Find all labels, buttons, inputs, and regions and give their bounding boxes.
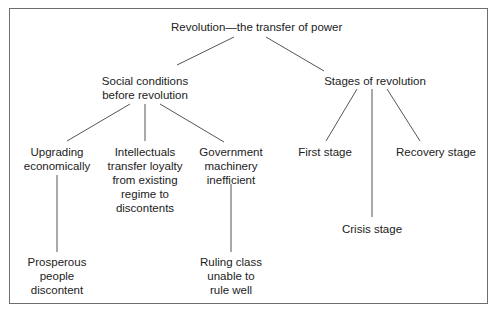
link-social-government (160, 104, 224, 142)
node-first-stage: First stage (290, 145, 360, 159)
node-root: Revolution—the transfer of power (171, 20, 331, 34)
node-line: Social conditions (95, 74, 195, 88)
node-line: unable to (191, 269, 271, 283)
node-line: Crisis stage (332, 222, 412, 236)
node-recovery-stage: Recovery stage (394, 145, 478, 159)
node-line: discontent (17, 283, 97, 297)
link-root-social (177, 37, 234, 65)
node-line: Prosperous (17, 255, 97, 269)
node-line: transfer loyalty (105, 159, 185, 173)
node-line: discontents (105, 201, 185, 215)
node-government: Government machinery inefficient (191, 145, 271, 187)
node-line: rule well (191, 283, 271, 297)
link-root-stages (266, 37, 324, 71)
node-line: Government (191, 145, 271, 159)
node-line: regime to (105, 187, 185, 201)
node-social-conditions: Social conditions before revolution (95, 74, 195, 102)
node-root-label: Revolution—the transfer of power (171, 21, 342, 33)
node-line: people (17, 269, 97, 283)
node-line: from existing (105, 173, 185, 187)
node-line: First stage (290, 145, 360, 159)
link-stages-first (326, 89, 357, 141)
node-line: Ruling class (191, 255, 271, 269)
node-upgrading: Upgrading economically (17, 145, 97, 173)
node-line: Recovery stage (394, 145, 478, 159)
link-social-upgrading (67, 104, 130, 141)
node-line: Stages of revolution (320, 74, 430, 88)
link-stages-recovery (387, 89, 420, 141)
node-line: Upgrading (17, 145, 97, 159)
node-line: before revolution (95, 88, 195, 102)
node-line: machinery (191, 159, 271, 173)
node-intellectuals: Intellectuals transfer loyalty from exis… (105, 145, 185, 215)
node-prosperous: Prosperous people discontent (17, 255, 97, 297)
node-ruling-class: Ruling class unable to rule well (191, 255, 271, 297)
node-line: inefficient (191, 173, 271, 187)
node-line: Intellectuals (105, 145, 185, 159)
node-line: economically (17, 159, 97, 173)
node-stages: Stages of revolution (320, 74, 430, 88)
node-crisis-stage: Crisis stage (332, 222, 412, 236)
